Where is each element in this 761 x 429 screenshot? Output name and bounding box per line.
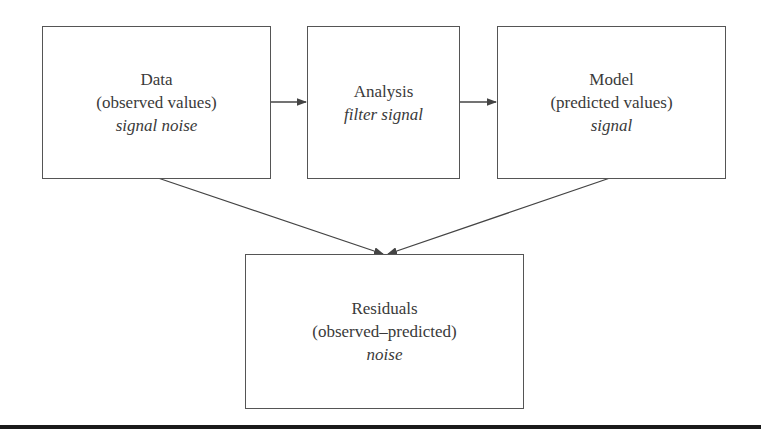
residuals-box: Residuals (observed–predicted) noise xyxy=(245,254,524,409)
data-subtitle: (observed values) xyxy=(96,91,216,114)
arrow-data-to-residuals xyxy=(158,178,383,254)
data-note: signal noise xyxy=(116,114,198,137)
residuals-note: noise xyxy=(367,343,403,366)
model-box: Model (predicted values) signal xyxy=(497,26,726,179)
arrow-model-to-residuals xyxy=(388,178,610,254)
residuals-title: Residuals xyxy=(351,297,417,320)
analysis-note: filter signal xyxy=(344,103,423,126)
model-subtitle: (predicted values) xyxy=(550,91,672,114)
page-bottom-rule xyxy=(0,425,761,429)
residuals-subtitle: (observed–predicted) xyxy=(312,320,456,343)
analysis-box: Analysis filter signal xyxy=(307,26,460,179)
data-box: Data (observed values) signal noise xyxy=(42,26,271,179)
analysis-title: Analysis xyxy=(354,80,414,103)
model-title: Model xyxy=(589,68,633,91)
data-title: Data xyxy=(140,68,172,91)
model-note: signal xyxy=(591,114,633,137)
